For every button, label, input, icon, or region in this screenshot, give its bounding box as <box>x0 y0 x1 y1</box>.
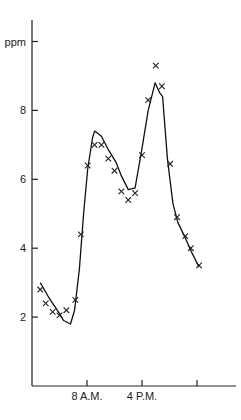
y-tick-label: 2 <box>20 311 26 323</box>
data-point-x-marker <box>153 63 159 69</box>
data-point-x-marker <box>50 309 56 315</box>
data-point-x-marker <box>139 152 145 158</box>
data-point-x-marker <box>125 197 131 203</box>
data-point-x-marker <box>43 301 49 307</box>
y-ticks: 2468ppm <box>5 36 38 324</box>
y-tick-label: ppm <box>5 36 26 48</box>
model-curve <box>40 83 199 324</box>
data-point-x-marker <box>196 263 202 269</box>
y-tick-label: 8 <box>20 104 26 116</box>
data-point-x-marker <box>112 168 118 174</box>
model-curve-layer <box>40 83 199 324</box>
y-tick-label: 4 <box>20 242 26 254</box>
data-point-x-marker <box>159 83 165 89</box>
data-point-x-marker <box>78 232 84 238</box>
x-tick-label: 8 A.M. <box>71 390 102 402</box>
data-point-x-marker <box>119 189 125 195</box>
data-point-x-marker <box>92 142 98 148</box>
y-tick-label: 6 <box>20 173 26 185</box>
data-point-x-marker <box>99 142 105 148</box>
observed-markers-layer <box>37 63 201 318</box>
data-point-x-marker <box>132 190 138 196</box>
data-point-x-marker <box>106 156 112 162</box>
data-point-x-marker <box>37 287 43 293</box>
ppm-time-chart: 2468ppm 8 A.M.4 P.M. <box>0 0 241 420</box>
x-tick-label: 4 P.M. <box>127 390 157 402</box>
x-ticks: 8 A.M.4 P.M. <box>71 380 197 402</box>
data-point-x-marker <box>64 307 70 313</box>
